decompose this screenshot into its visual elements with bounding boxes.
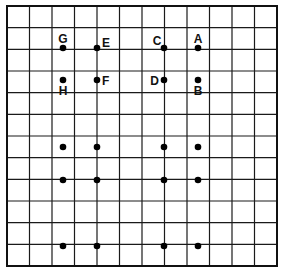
label-d: D [150,74,159,88]
grid-lines [7,6,277,266]
points-layer [60,45,202,250]
point-unlabeled [161,243,168,250]
grid-diagram: GECAHFDB [0,0,287,272]
labels-layer: GECAHFDB [58,32,202,98]
point-unlabeled [60,177,67,184]
label-f: F [102,74,109,88]
point-unlabeled [195,177,202,184]
label-g: G [58,32,67,46]
label-h: H [59,84,68,98]
point-unlabeled [60,243,67,250]
label-a: A [194,32,203,46]
point-unlabeled [195,243,202,250]
point-f [94,77,101,84]
point-unlabeled [94,177,101,184]
point-unlabeled [161,177,168,184]
label-c: C [153,34,162,48]
label-e: E [102,36,110,50]
point-d [161,77,168,84]
point-unlabeled [60,144,67,151]
point-unlabeled [94,144,101,151]
point-unlabeled [161,144,168,151]
point-c [161,45,168,52]
point-b [195,77,202,84]
point-unlabeled [195,144,202,151]
point-e [94,45,101,52]
label-b: B [194,84,203,98]
point-h [60,77,67,84]
point-unlabeled [94,243,101,250]
